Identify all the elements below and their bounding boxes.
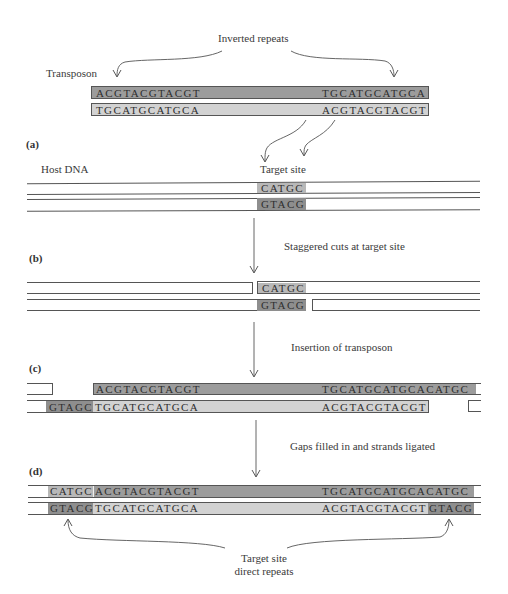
direct-repeat-right-arrow <box>287 520 449 548</box>
cut-top-right-fragment <box>257 281 480 294</box>
insert-top-right-host-line-lower <box>476 394 481 395</box>
ligated-top-line-lower <box>28 497 481 498</box>
cut-bottom-right-fragment <box>312 299 480 311</box>
insert-top-right-host-line <box>476 383 481 384</box>
transposon-top-left-seq: ACGTACGTACGT <box>96 87 201 99</box>
host-target-top-seq: CATGC <box>261 182 304 194</box>
direct-repeat-left-arrow <box>68 520 225 548</box>
panel-label-b: (b) <box>29 252 42 264</box>
insert-top-left-seq: ACGTACGTACGT <box>96 383 201 395</box>
transposon-to-target-arrow-2 <box>304 120 335 155</box>
ligated-bottom-right-repeat-seq: GTACG <box>429 502 473 514</box>
host-dna-label: Host DNA <box>41 163 88 175</box>
ligated-top-left-seq: ACGTACGTACGT <box>95 485 200 497</box>
direct-repeats-label-line1: Target site <box>234 552 294 564</box>
step-b-label: Staggered cuts at target site <box>284 240 405 252</box>
panel-label-a: (a) <box>26 138 39 150</box>
ligated-bottom-left-seq: TGCATGCATGCA <box>95 502 199 514</box>
transposon-bottom-left-seq: TGCATGCATGCA <box>96 104 200 116</box>
insert-bottom-left-seq: TGCATGCATGCA <box>95 401 199 413</box>
ligated-top-right-seq: TGCATGCATGCACATGC <box>322 485 469 497</box>
insert-bottom-overhang-seq: GTAGC <box>49 401 93 413</box>
transposon-label: Transposon <box>46 67 97 79</box>
ligated-bottom-right-seq: ACGTACGTACGT <box>322 502 427 514</box>
inverted-repeat-right-arrow <box>291 51 394 76</box>
transposon-bottom-right-seq: ACGTACGTACGT <box>322 104 427 116</box>
transposon-top-right-seq: TGCATGCATGCA <box>322 87 426 99</box>
ligated-bottom-repeat-seq: GTACG <box>50 502 94 514</box>
cut-target-bottom-seq: GTACG <box>261 299 305 311</box>
insert-bottom-right-seq: ACGTACGTACGT <box>322 401 427 413</box>
transposon-to-target-arrow-1 <box>265 120 306 161</box>
insert-top-right-seq: TGCATGCATGCACATGC <box>322 383 469 395</box>
insert-bottom-left-host-line <box>27 400 47 401</box>
target-site-label: Target site <box>260 163 306 175</box>
insert-bottom-left-host-line-lower <box>27 412 47 413</box>
inverted-repeats-label: Inverted repeats <box>218 32 289 44</box>
insert-top-left-host <box>27 383 53 395</box>
insert-bottom-right-host <box>468 400 481 412</box>
ligated-top-repeat-seq: CATGC <box>50 485 93 497</box>
panel-label-d: (d) <box>29 465 42 477</box>
ligated-bottom-line-lower <box>28 514 481 515</box>
step-d-label: Gaps filled in and strands ligated <box>290 440 435 452</box>
inverted-repeat-left-arrow <box>117 51 222 76</box>
host-target-bottom-seq: GTACG <box>261 198 305 210</box>
direct-repeats-label-line2: direct repeats <box>222 565 306 577</box>
step-c-label: Insertion of transposon <box>291 341 392 353</box>
panel-label-c: (c) <box>29 362 41 374</box>
cut-top-left-fragment <box>27 282 253 294</box>
